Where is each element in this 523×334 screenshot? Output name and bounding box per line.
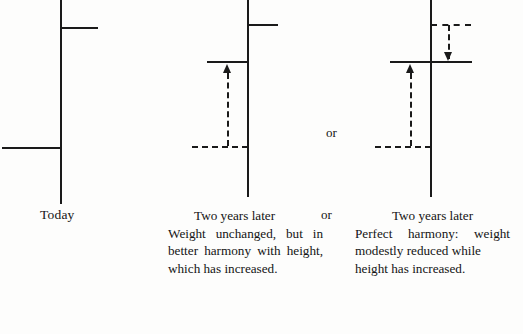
caption-middle-heading: Two years later <box>168 207 323 225</box>
caption-middle: Two years later Weight unchanged, but in… <box>168 207 323 277</box>
panel-two-years-perfect-old-weight-dashed <box>375 146 431 148</box>
panel-two-years-unchanged-axis <box>247 0 249 197</box>
panel-two-years-perfect-harmony-bar <box>390 61 472 63</box>
panel-two-years-unchanged-arrow-up-icon <box>223 64 231 73</box>
panel-today-height-bar <box>60 27 98 29</box>
panel-today-label: Today <box>40 207 75 223</box>
caption-right-line-3: height has increased. <box>355 260 510 278</box>
panel-today-weight-bar <box>2 147 61 149</box>
panel-today-axis <box>60 0 62 204</box>
panel-two-years-perfect-arrow-down-icon <box>444 52 452 61</box>
caption-right-line-2: modestly reduced while <box>355 243 481 258</box>
caption-middle-body: Weight unchanged, but in better harmony … <box>168 225 323 278</box>
panel-two-years-unchanged-arrow-shaft <box>227 73 229 146</box>
panel-two-years-perfect-axis <box>430 0 432 197</box>
panel-two-years-perfect-old-height-dashed <box>431 24 471 26</box>
panel-two-years-unchanged-height-bar <box>247 24 278 26</box>
figure-canvas: Today or Two years later Weight unchange… <box>0 0 523 334</box>
panel-two-years-unchanged-old-weight-dashed <box>192 146 248 148</box>
or-separator-captions: or <box>321 207 332 223</box>
panel-two-years-perfect-up-arrow-shaft <box>410 73 412 146</box>
caption-right-line-1: Perfect harmony: weight <box>355 226 510 241</box>
panel-two-years-unchanged-weight-bar <box>207 61 248 63</box>
or-separator-diagrams: or <box>326 125 337 141</box>
panel-two-years-perfect-arrow-up-icon <box>406 64 414 73</box>
caption-right-heading: Two years later <box>355 207 510 225</box>
caption-right: Two years later Perfect harmony: weight … <box>355 207 510 277</box>
